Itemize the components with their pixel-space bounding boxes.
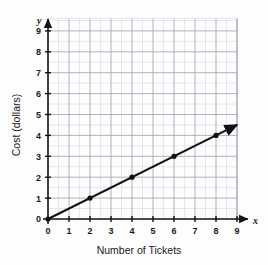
y-tick-label: 2: [36, 173, 41, 183]
y-tick-label: 9: [36, 26, 41, 36]
x-tick-labels: 0123456789: [45, 226, 239, 236]
data-point: [45, 216, 50, 221]
x-tick-label: 6: [171, 226, 176, 236]
y-axis-letter: y: [36, 15, 42, 26]
y-axis-title: Cost (dollars): [10, 94, 22, 156]
x-tick-label: 3: [108, 226, 113, 236]
x-axis-letter: x: [252, 215, 258, 226]
x-tick-label: 9: [234, 226, 239, 236]
y-tick-label: 8: [36, 47, 41, 57]
data-point: [213, 133, 218, 138]
x-tick-label: 8: [213, 226, 218, 236]
x-tick-label: 4: [129, 226, 134, 236]
y-tick-label: 4: [36, 131, 41, 141]
y-tick-label: 1: [36, 194, 41, 204]
x-tick-label: 7: [192, 226, 197, 236]
x-tick-label: 2: [87, 226, 92, 236]
y-tick-label: 6: [36, 89, 41, 99]
y-tick-label: 0: [36, 214, 41, 224]
y-tick-label: 5: [36, 110, 41, 120]
tick-marks: [45, 31, 237, 222]
chart-figure: 0123456789 0123456789 x y Number of Tick…: [0, 0, 268, 265]
x-tick-label: 1: [66, 226, 71, 236]
y-tick-label: 7: [36, 68, 41, 78]
y-tick-labels: 0123456789: [36, 26, 41, 224]
data-point: [171, 154, 176, 159]
y-tick-label: 3: [36, 152, 41, 162]
data-point: [87, 196, 92, 201]
x-tick-label: 5: [150, 226, 155, 236]
data-point: [129, 175, 134, 180]
axes: [43, 19, 248, 224]
x-axis-title: Number of Tickets: [97, 244, 182, 256]
minor-gridlines: [48, 18, 237, 219]
x-tick-label: 0: [45, 226, 50, 236]
line-chart: 0123456789 0123456789 x y Number of Tick…: [0, 0, 268, 265]
